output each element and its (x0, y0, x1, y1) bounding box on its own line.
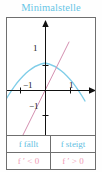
table-row: f ′ < 0 f ′ > 0 (7, 153, 95, 169)
cell-derivative-positive: f ′ > 0 (51, 153, 95, 169)
x-axis-arrow-icon (89, 87, 96, 93)
y-axis-label-negative-one: −1 (29, 102, 39, 111)
cell-derivative-negative: f ′ < 0 (7, 153, 51, 169)
cell-f-rising: f steigt (51, 136, 95, 152)
figure-root: Minimalstelle −1 1 1 −1 f fällt (0, 0, 102, 172)
monotonicity-table: f fällt f steigt f ′ < 0 f ′ > 0 (6, 136, 96, 170)
table-row: f fällt f steigt (7, 136, 95, 153)
figure-title: Minimalstelle (0, 1, 102, 14)
y-axis-label-positive-one: 1 (33, 44, 38, 53)
y-axis-arrow-icon (42, 20, 48, 27)
x-axis-label-negative-one: −1 (23, 81, 33, 90)
cell-f-falling: f fällt (7, 136, 51, 152)
x-axis-label-positive-one: 1 (69, 81, 74, 90)
plot-svg (7, 18, 96, 136)
plot-area: −1 1 1 −1 (6, 17, 96, 136)
